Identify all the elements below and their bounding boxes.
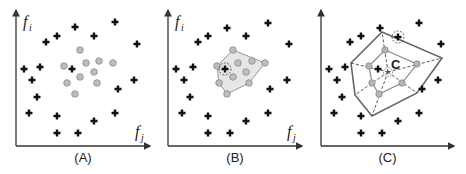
data-circle: [91, 69, 98, 76]
cross-point: [416, 20, 423, 27]
data-circle: [77, 74, 84, 81]
cross-point: [205, 130, 212, 137]
cross-point: [115, 86, 122, 93]
data-circle: [230, 74, 237, 81]
cross-point: [358, 113, 365, 120]
cross-point: [179, 110, 186, 117]
cross-point: [21, 66, 28, 73]
cross-point: [286, 41, 293, 48]
center-point: [387, 71, 390, 74]
data-circle: [72, 91, 79, 98]
cross-point: [205, 113, 212, 120]
data-circle: [235, 60, 242, 67]
cross-point: [342, 64, 349, 71]
cross-point: [435, 77, 442, 84]
cross-point: [416, 110, 423, 117]
hull-vertex-circle: [224, 91, 231, 98]
cross-point: [91, 33, 98, 40]
cross-point: [75, 130, 82, 137]
cross-point: [267, 86, 274, 93]
cross-point: [187, 94, 194, 101]
cross-point: [358, 33, 365, 40]
data-circle: [366, 63, 372, 69]
cross-point: [173, 66, 180, 73]
panel-caption: (B): [226, 150, 243, 165]
cross-point: [91, 118, 98, 125]
cross-point: [379, 130, 386, 137]
cross-point: [326, 66, 333, 73]
panel-a: fifj(A): [16, 10, 150, 165]
data-circle: [94, 80, 101, 87]
panel-caption: (A): [74, 150, 91, 165]
data-circle: [83, 60, 90, 67]
cross-point: [334, 77, 341, 84]
x-axis-subscript: j: [291, 132, 296, 143]
cross-point: [26, 110, 33, 117]
hull-vertex-circle: [262, 60, 269, 67]
cross-point: [265, 110, 272, 117]
cross-point: [72, 24, 79, 31]
cross-point: [134, 41, 141, 48]
data-circle: [243, 69, 250, 76]
data-circle: [376, 91, 382, 97]
cross-point: [331, 110, 338, 117]
hull-vertex-circle: [216, 80, 223, 87]
cross-point: [375, 66, 382, 73]
cross-point: [37, 64, 44, 71]
cross-point: [265, 20, 272, 27]
data-circle: [61, 63, 68, 70]
panel-c: (C)C: [321, 10, 454, 165]
cross-point: [190, 64, 197, 71]
y-axis-subscript: i: [181, 22, 184, 33]
cross-point: [131, 77, 138, 84]
cross-point: [69, 66, 76, 73]
cross-point: [43, 39, 50, 46]
cross-point: [243, 118, 250, 125]
cross-point: [112, 110, 119, 117]
cross-point: [227, 130, 234, 137]
cross-point: [34, 94, 41, 101]
cross-point: [395, 118, 402, 125]
data-circle: [249, 58, 256, 65]
data-circle: [77, 47, 84, 54]
hull-vertex-circle: [246, 80, 253, 87]
cross-point: [224, 25, 231, 32]
cross-point: [54, 130, 61, 137]
cross-point: [54, 33, 61, 40]
outer-polygon: [351, 32, 442, 116]
cross-point: [284, 77, 291, 84]
cross-point: [438, 41, 445, 48]
cross-point: [419, 86, 426, 93]
center-label: C: [391, 57, 401, 72]
hull-vertex-circle: [230, 47, 237, 54]
panel-caption: (C): [378, 150, 396, 165]
cross-point: [181, 77, 188, 84]
cross-point: [54, 113, 61, 120]
data-circle: [96, 58, 103, 65]
cross-point: [243, 33, 250, 40]
cross-point: [205, 33, 212, 40]
data-circle: [369, 80, 375, 86]
data-circle: [64, 80, 71, 87]
x-axis-subscript: j: [139, 132, 144, 143]
panel-b: fifj(B): [168, 10, 302, 165]
cross-point: [358, 130, 365, 137]
data-circle: [382, 47, 388, 53]
cross-point: [195, 39, 202, 46]
y-axis-subscript: i: [29, 22, 32, 33]
cross-point: [339, 94, 346, 101]
figure-canvas: fifj(A) fifj(B) (C)C: [0, 0, 466, 174]
cross-point: [29, 77, 36, 84]
cross-point: [112, 19, 119, 26]
data-circle: [110, 60, 117, 67]
cross-point: [377, 25, 384, 32]
cross-point: [347, 39, 354, 46]
data-circle: [399, 80, 405, 86]
data-circle: [414, 61, 420, 67]
